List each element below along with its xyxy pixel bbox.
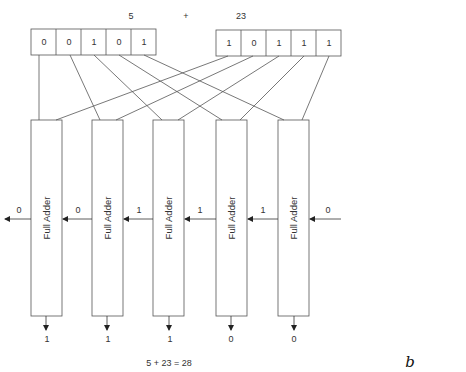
a-bit-3: 0 [66,37,71,47]
carry-in-value: 0 [325,205,330,215]
a-bit-4: 0 [41,37,46,47]
a-bit-0: 1 [141,37,146,47]
carry-value: 1 [136,205,141,215]
b-bit-3: 0 [251,38,256,48]
operand-b-label: 23 [236,11,246,21]
full-adder-2: Full Adder [153,120,184,316]
b-bit-1: 1 [301,38,306,48]
full-adder-0: Full Adder [278,120,309,316]
a-bit-1: 0 [116,37,121,47]
operand-a-wires [39,55,284,120]
figure-label: b [405,353,415,371]
sum-bit-2: 1 [167,334,172,344]
sum-bit-4: 1 [44,334,49,344]
carry-value: 1 [197,205,202,215]
operand-b-wires [56,56,329,120]
a-bit-2: 1 [91,37,96,47]
operand-a-label: 5 [128,11,133,21]
sum-bit-1: 0 [228,334,233,344]
full-adder-label: Full Adder [288,197,299,240]
carry-value: 1 [260,205,265,215]
plus-sign: + [183,11,188,21]
full-adder-1: Full Adder [216,120,247,316]
b-bit-2: 1 [276,38,281,48]
full-adder-4: Full Adder [31,120,62,316]
b-bit-0: 1 [326,38,331,48]
carry-value: 0 [75,205,80,215]
full-adder-label: Full Adder [41,197,52,240]
sum-bit-3: 1 [105,334,110,344]
sum-bit-0: 0 [291,334,296,344]
full-adder-label: Full Adder [102,197,113,240]
full-adder-label: Full Adder [226,197,237,240]
carry-out-value: 0 [16,205,21,215]
b-bit-4: 1 [226,38,231,48]
full-adder-label: Full Adder [163,197,174,240]
ripple-carry-adder-diagram: 5 + 23 0 0 1 0 1 1 0 1 1 1 [0,0,466,372]
full-adder-3: Full Adder [92,120,123,316]
sum-arrows [46,316,294,330]
equation-caption: 5 + 23 = 28 [146,358,192,368]
